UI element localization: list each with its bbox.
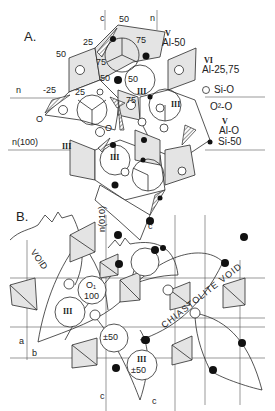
site-number: 50 [56,50,66,59]
polyhedron-b [100,254,118,278]
si-o-circle [96,128,105,137]
filled-dot [114,231,122,239]
si-o-circle [178,167,186,175]
si-50-dot [143,53,150,60]
si-o-circle [76,66,85,75]
legend-filled-dot [208,140,213,145]
c-axis-label-b: c [100,392,105,401]
roman-iii: III [110,154,119,162]
filled-dot [151,246,159,254]
site-number: O [36,115,43,124]
n100-axis-label: n(100) [12,138,38,147]
si-50-dot [114,76,122,84]
site-number: 75 [126,96,136,105]
n010-axis-label: n(010) [98,206,107,232]
si-o-circle [121,168,129,176]
polyhedron-b [10,278,37,310]
si-o-circle [160,124,168,132]
panel-b [10,212,265,411]
si-tetrahedron [150,190,165,215]
si-50-dot [110,36,116,42]
polyhedron [70,140,95,180]
filled-dot [221,259,229,267]
c-axis-label: c [100,14,105,23]
c-axis-label-b: c [152,397,157,406]
roman-iii: III [137,88,146,96]
si-50-dot [158,196,163,201]
filled-dot [160,245,166,251]
site-number: 50 [100,74,110,83]
o1-value: 100 [84,292,99,301]
panel-b-label: B. [16,210,28,223]
si-50-dot [141,158,146,163]
polyhedron-b [72,338,97,368]
site-number: 50 [119,15,129,24]
site-number: 25 [83,38,93,47]
polyhedron [165,145,195,185]
legend-al-25-75: Al-25,75 [202,65,239,75]
small-open-circle [90,310,100,320]
legend-al-50: Al-50 [162,38,185,48]
si-o-circle [156,104,164,112]
site-number: 25 [75,88,85,97]
c-axis-label-b: c [148,222,153,231]
small-open-circle [64,279,74,289]
panel-a-label: A. [24,30,36,43]
legend-si-o: Si-O [214,85,234,95]
si-50-dot [141,137,147,143]
si-50-dot [110,142,116,148]
site-number: 75 [96,58,106,67]
iii-label-b: III [63,308,72,316]
si-50-dot [148,95,153,100]
si-o-circle [138,118,146,126]
o1-label: O₁ [86,281,96,290]
legend-open-circle [203,87,210,94]
site-number: O [105,124,112,133]
b-axis-label: b [32,349,37,358]
si-o-circle [97,89,103,95]
site-number: -25 [43,86,56,95]
n-axis-label: n [16,86,21,95]
pm50-label: ±50 [103,333,118,342]
iii-pm50-value: ±50 [131,366,146,375]
filled-dot [142,336,150,344]
structure-drawing [0,0,275,411]
roman-iii: III [62,143,71,151]
site-number: 75 [136,36,146,45]
filled-dot [112,364,120,372]
a-axis-label: a [19,337,24,346]
n-axis-label-top: n [150,14,155,23]
si-o-circle [175,66,184,75]
crystal-structure-figure: A. c n n n(100) 50 25 50 75 50 75 -25 25… [0,0,275,411]
si-o-circle [59,106,68,115]
site-number: 50 [128,75,138,84]
filled-dot [115,260,123,268]
si-50-dot [112,182,119,189]
roman-iii: III [171,101,180,109]
legend-si-50: Si-50 [218,137,241,147]
filled-dot [238,339,246,347]
legend-o2-o: O²-O [210,102,232,112]
iii-pm50-roman: III [137,356,146,364]
small-open-circle [163,285,173,295]
filled-dot [240,233,248,241]
legend-al-o: Al-O [219,126,239,136]
polyhedron-b [70,222,95,262]
filled-dot [209,366,217,374]
